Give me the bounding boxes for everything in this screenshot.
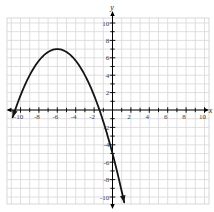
x-tick-label: -10 bbox=[14, 113, 24, 121]
y-tick-label: 8 bbox=[106, 37, 110, 45]
tick-labels: -10-8-6-4-2246810-10-8-6-4-2246810 bbox=[14, 20, 207, 202]
y-tick-label: 10 bbox=[102, 20, 110, 28]
x-tick-label: -4 bbox=[71, 113, 77, 121]
x-tick-label: 6 bbox=[164, 113, 168, 121]
y-tick-label: 6 bbox=[106, 54, 110, 62]
x-tick-label: -8 bbox=[34, 113, 40, 121]
y-tick-label: 4 bbox=[106, 72, 110, 80]
y-tick-label: -8 bbox=[103, 176, 109, 184]
x-tick-label: 8 bbox=[182, 113, 186, 121]
y-axis-label: y bbox=[109, 3, 114, 12]
y-tick-label: -6 bbox=[103, 159, 109, 167]
x-tick-label: -2 bbox=[89, 113, 95, 121]
x-axis-label: x bbox=[208, 106, 213, 115]
x-tick-label: 2 bbox=[127, 113, 131, 121]
x-tick-label: 10 bbox=[199, 113, 207, 121]
graph-figure: -10-8-6-4-2246810-10-8-6-4-2246810xy bbox=[0, 0, 214, 212]
x-tick-label: 4 bbox=[146, 113, 150, 121]
y-tick-label: -10 bbox=[100, 194, 110, 202]
parabola-graph: -10-8-6-4-2246810-10-8-6-4-2246810xy bbox=[0, 0, 214, 212]
y-tick-label: 2 bbox=[106, 89, 110, 97]
x-tick-label: -6 bbox=[52, 113, 58, 121]
